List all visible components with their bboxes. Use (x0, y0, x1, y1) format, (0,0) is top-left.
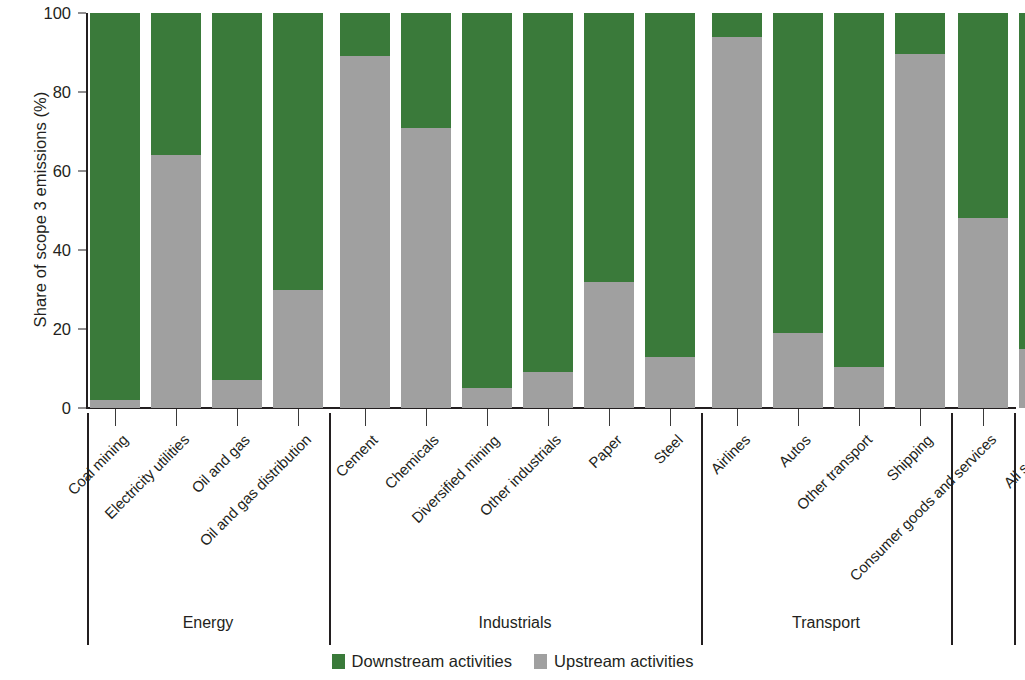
legend-swatch-green (332, 654, 345, 669)
x-axis-labels: Coal miningElectricity utilitiesOil and … (0, 0, 1025, 680)
x-axis-tick-mark (983, 409, 984, 426)
x-axis-label-autos: Autos (775, 431, 814, 470)
group-separator (329, 413, 331, 645)
legend-item[interactable]: Upstream activities (534, 652, 693, 671)
x-axis-label-airlines: Airlines (707, 431, 753, 477)
group-label-energy: Energy (183, 614, 234, 632)
legend-item[interactable]: Downstream activities (332, 652, 512, 671)
x-axis-tick-mark (176, 409, 177, 426)
x-axis-tick-mark (237, 409, 238, 426)
group-label-industrials: Industrials (479, 614, 552, 632)
x-axis-tick-mark (115, 409, 116, 426)
x-axis-label-all-sectors: All sectors (1000, 431, 1025, 491)
x-axis-label-shipping: Shipping (883, 431, 936, 484)
chart-legend: Downstream activitiesUpstream activities (0, 652, 1025, 671)
legend-swatch-gray (534, 654, 547, 669)
x-axis-tick-mark (365, 409, 366, 426)
x-axis-tick-mark (737, 409, 738, 426)
x-axis-tick-mark (609, 409, 610, 426)
x-axis-label-steel: Steel (650, 431, 686, 467)
x-axis-label-cement: Cement (332, 431, 381, 480)
group-separator (701, 413, 703, 645)
x-axis-tick-mark (670, 409, 671, 426)
x-axis-tick-mark (298, 409, 299, 426)
group-label-transport: Transport (792, 614, 860, 632)
group-separator (951, 413, 953, 645)
x-axis-label-chemicals: Chemicals (381, 431, 442, 492)
x-axis-tick-mark (426, 409, 427, 426)
x-axis-tick-mark (859, 409, 860, 426)
x-axis-tick-mark (798, 409, 799, 426)
x-axis-tick-mark (487, 409, 488, 426)
legend-label: Upstream activities (554, 652, 693, 671)
group-separator (87, 413, 89, 645)
legend-label: Downstream activities (352, 652, 512, 671)
chart-root: Share of scope 3 emissions (%) 020406080… (0, 0, 1025, 680)
x-axis-tick-mark (548, 409, 549, 426)
x-axis-tick-mark (920, 409, 921, 426)
group-separator (1014, 413, 1016, 645)
x-axis-label-paper: Paper (585, 431, 625, 471)
x-axis-label-oil-and-gas: Oil and gas (188, 431, 253, 496)
x-axis-label-oil-and-gas-distribution: Oil and gas distribution (196, 431, 314, 549)
